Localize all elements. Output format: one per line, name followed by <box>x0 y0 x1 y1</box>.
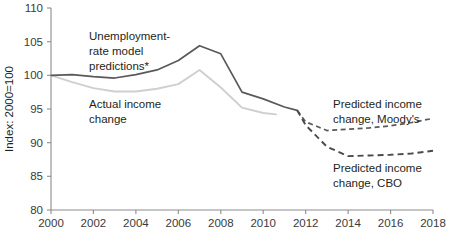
x-tick-label-2002: 2002 <box>81 217 107 229</box>
y-tick-marks <box>47 8 51 210</box>
annotation-unemployment-model: Unemployment- rate model predictions* <box>89 30 170 72</box>
annotation-cbo: Predicted income change, CBO <box>333 162 422 189</box>
x-tick-label-2000: 2000 <box>38 217 64 229</box>
x-tick-label-2014: 2014 <box>335 217 361 229</box>
y-tick-label-85: 85 <box>30 170 43 182</box>
annotation-actual-line1: Actual income <box>89 98 161 110</box>
x-tick-label-2004: 2004 <box>123 217 149 229</box>
annotation-moodys: Predicted income change, Moody's <box>333 98 422 125</box>
chart-container: 80 85 90 95 100 105 110 2000 2002 2004 2… <box>0 0 449 243</box>
y-tick-label-90: 90 <box>30 137 43 149</box>
annotation-unemployment-line3: predictions* <box>89 60 150 72</box>
y-axis-title: Index: 2000=100 <box>3 66 15 152</box>
x-tick-label-2008: 2008 <box>208 217 234 229</box>
x-tick-label-2012: 2012 <box>293 217 319 229</box>
line-chart: 80 85 90 95 100 105 110 2000 2002 2004 2… <box>0 0 449 243</box>
y-tick-label-110: 110 <box>25 2 43 14</box>
x-tick-label-2010: 2010 <box>250 217 276 229</box>
x-tick-label-2016: 2016 <box>378 217 404 229</box>
series-line-unemployment-model <box>51 46 297 111</box>
annotation-moodys-line2: change, Moody's <box>333 113 420 125</box>
x-tick-marks <box>51 210 433 214</box>
x-tick-label-2006: 2006 <box>166 217 192 229</box>
annotation-actual-line2: change <box>89 113 127 125</box>
annotation-cbo-line1: Predicted income <box>333 162 422 174</box>
annotation-actual-income: Actual income change <box>89 98 161 125</box>
x-tick-label-2018: 2018 <box>420 217 446 229</box>
annotation-cbo-line2: change, CBO <box>333 177 402 189</box>
y-tick-label-80: 80 <box>30 204 43 216</box>
y-tick-label-105: 105 <box>24 36 43 48</box>
y-tick-label-100: 100 <box>24 69 43 81</box>
y-tick-label-95: 95 <box>30 103 43 115</box>
annotation-unemployment-line1: Unemployment- <box>89 30 170 42</box>
annotation-unemployment-line2: rate model <box>89 45 143 57</box>
annotation-moodys-line1: Predicted income <box>333 98 422 110</box>
